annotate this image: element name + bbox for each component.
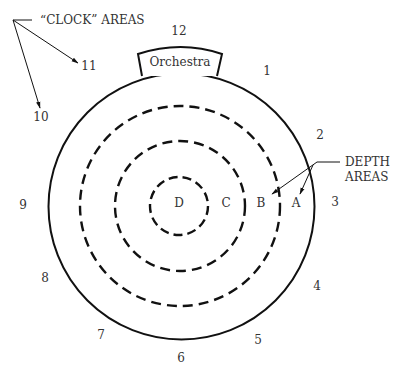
arrow-to-b — [272, 162, 317, 194]
depth-letter-a: A — [291, 196, 301, 210]
depth-letter-b: B — [257, 196, 266, 210]
clock-number-10: 10 — [33, 110, 48, 124]
clock-number-11: 11 — [81, 59, 96, 73]
arrow-to-10 — [13, 20, 40, 108]
clock-number-5: 5 — [254, 333, 262, 347]
depth-letters: A B C D — [174, 196, 300, 210]
clock-number-1: 1 — [263, 64, 271, 78]
depth-letter-c: C — [221, 196, 230, 210]
orchestra-box: Orchestra — [138, 47, 222, 76]
clock-number-2: 2 — [316, 128, 324, 142]
clock-areas-label: “CLOCK” AREAS — [40, 13, 145, 27]
depth-areas-label-line2: AREAS — [344, 170, 388, 184]
clock-number-6: 6 — [177, 351, 185, 365]
clock-number-4: 4 — [313, 279, 321, 293]
depth-areas-callout: DEPTH AREAS — [272, 155, 390, 194]
clock-number-7: 7 — [97, 328, 105, 342]
depth-areas-label-line1: DEPTH — [345, 155, 390, 169]
depth-letter-d: D — [174, 196, 184, 210]
clock-number-3: 3 — [331, 195, 339, 209]
clock-number-12: 12 — [171, 24, 186, 38]
clock-number-8: 8 — [41, 271, 49, 285]
clock-number-9: 9 — [19, 198, 27, 212]
orchestra-label: Orchestra — [150, 55, 211, 69]
performance-area-diagram: Orchestra 12 1 2 3 4 5 6 7 8 9 10 11 A B… — [0, 0, 397, 377]
clock-areas-callout: “CLOCK” AREAS — [13, 13, 145, 108]
